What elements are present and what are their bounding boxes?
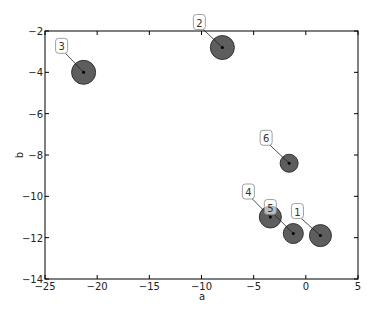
annotation-label: 4: [245, 187, 251, 198]
arrow-head-icon: [292, 232, 295, 235]
y-tick-label: −8: [28, 150, 43, 161]
annotation-label: 2: [196, 18, 202, 29]
y-tick-label: −12: [22, 233, 43, 244]
x-axis-label: a: [199, 291, 205, 302]
x-tick-label: 5: [355, 281, 361, 292]
annotation-label: 3: [58, 41, 64, 52]
annotation-label: 5: [267, 203, 273, 214]
arrow-head-icon: [319, 234, 322, 237]
y-axis: −2−4−6−8−10−12−14: [22, 26, 358, 285]
annotations-layer: 123456: [56, 15, 322, 238]
annotation-label: 1: [294, 207, 300, 218]
x-tick-label: −15: [139, 281, 160, 292]
annotation-label: 6: [263, 133, 269, 144]
arrow-head-icon: [221, 46, 224, 49]
x-tick-label: −5: [246, 281, 261, 292]
y-tick-label: −2: [28, 26, 43, 37]
y-tick-label: −14: [22, 274, 43, 285]
y-axis-label: b: [14, 152, 25, 158]
arrow-head-icon: [288, 162, 291, 165]
x-tick-label: 0: [303, 281, 309, 292]
arrow-head-icon: [269, 216, 272, 219]
y-tick-label: −6: [28, 109, 43, 120]
x-tick-label: −20: [87, 281, 108, 292]
scatter-chart: 123456 −25−20−15−10−505 −2−4−6−8−10−12−1…: [0, 0, 376, 312]
y-tick-label: −4: [28, 67, 43, 78]
arrow-head-icon: [82, 71, 85, 74]
y-tick-label: −10: [22, 191, 43, 202]
